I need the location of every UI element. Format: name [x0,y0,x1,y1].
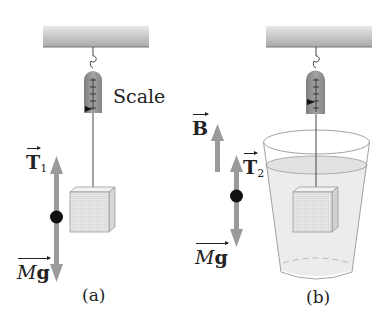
arrow-down-Mg-b [230,229,243,247]
hook-b [313,56,319,68]
tension-label-a: T1 [26,151,47,175]
buoyancy-diagram: Scale T1 Mg (a) B T2 Mg (b) [0,0,388,319]
arrow-down-Mg-a [50,264,63,282]
hook-a [90,56,96,68]
arrow-up-B [211,124,224,141]
diagram-graphics [0,0,388,319]
ceiling-b [266,26,372,47]
buoyant-force-label: B [192,117,208,139]
scale-label: Scale [113,85,165,107]
center-of-mass-b [230,190,243,203]
tension-label-b: T2 [243,156,264,180]
weight-label-a: Mg [17,261,50,283]
arrow-up-T1 [50,156,63,174]
weight-label-b: Mg [195,246,228,268]
panel-a [43,26,149,282]
caption-b: (b) [306,287,330,307]
center-of-mass-a [50,211,63,224]
panel-b [211,26,372,279]
caption-a: (a) [82,285,105,305]
ceiling-a [43,26,149,47]
spring-scale-b [306,71,325,115]
arrow-up-T2 [230,155,243,172]
block-a [70,192,109,232]
block-b [293,192,332,232]
